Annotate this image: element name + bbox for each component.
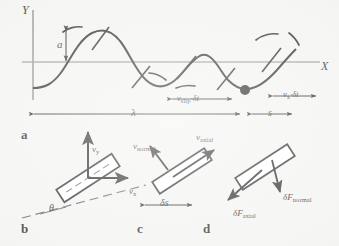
f-normal-label: δFnormal bbox=[283, 187, 312, 203]
body-point-dot bbox=[240, 85, 250, 95]
panel-letter-c: c bbox=[137, 222, 143, 235]
axis-label-y: Y bbox=[22, 4, 29, 16]
f-normal-subscript: normal bbox=[293, 196, 312, 203]
ds-label: δs bbox=[160, 198, 169, 208]
panel-letter-b: b bbox=[21, 222, 28, 235]
f-axial-label: δFaxial bbox=[233, 203, 256, 219]
panel-letter-a: a bbox=[21, 128, 28, 141]
vx-label: vx bbox=[129, 181, 136, 197]
v-normal-subscript: normal bbox=[137, 145, 156, 152]
f-axial-subscript: axial bbox=[243, 212, 256, 219]
slip-velocity-label: vslip·δt bbox=[177, 88, 199, 104]
slip-subscript: slip bbox=[181, 97, 191, 104]
panel-a-rod-segments bbox=[92, 27, 281, 90]
panel-letter-d: d bbox=[203, 222, 210, 235]
vy-subscript: y bbox=[96, 148, 99, 155]
slip-suffix: ·δt bbox=[191, 93, 199, 103]
v-normal-label: vnormal bbox=[133, 136, 156, 152]
axis-label-x: X bbox=[321, 60, 328, 72]
f-normal-prefix: δF bbox=[283, 192, 293, 202]
v-axial-subscript: axial bbox=[200, 136, 213, 143]
v-axial-label: vaxial bbox=[196, 127, 213, 143]
stride-label: s bbox=[268, 108, 272, 118]
theta-label: θ bbox=[49, 203, 54, 213]
forward-velocity-label: vx·δt bbox=[283, 84, 299, 100]
vx-subscript: x bbox=[133, 190, 136, 197]
f-axial-prefix: δF bbox=[233, 208, 243, 218]
forward-subscript: x bbox=[287, 93, 290, 100]
forward-suffix: ·δt bbox=[290, 89, 298, 99]
vy-label: vy bbox=[92, 139, 99, 155]
panel-a-ghost-arcs bbox=[63, 27, 299, 88]
panel-b-drawing bbox=[22, 132, 146, 218]
panel-c-drawing bbox=[145, 146, 214, 205]
wavelength-label: λ bbox=[131, 107, 136, 118]
amplitude-label: a bbox=[57, 39, 63, 50]
figure-canvas: Y X a vslip·δt vx·δt λ s a b c d vy vx θ… bbox=[0, 0, 339, 246]
